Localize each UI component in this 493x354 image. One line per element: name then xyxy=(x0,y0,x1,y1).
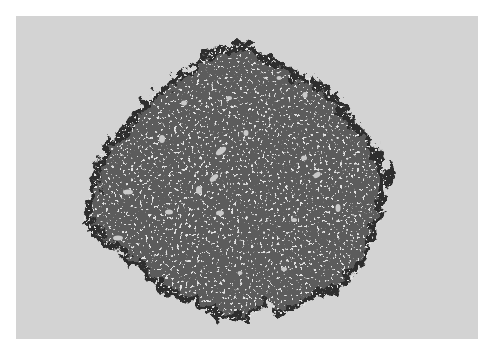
growth-cluster xyxy=(0,0,493,354)
cluster-holes xyxy=(80,40,400,330)
